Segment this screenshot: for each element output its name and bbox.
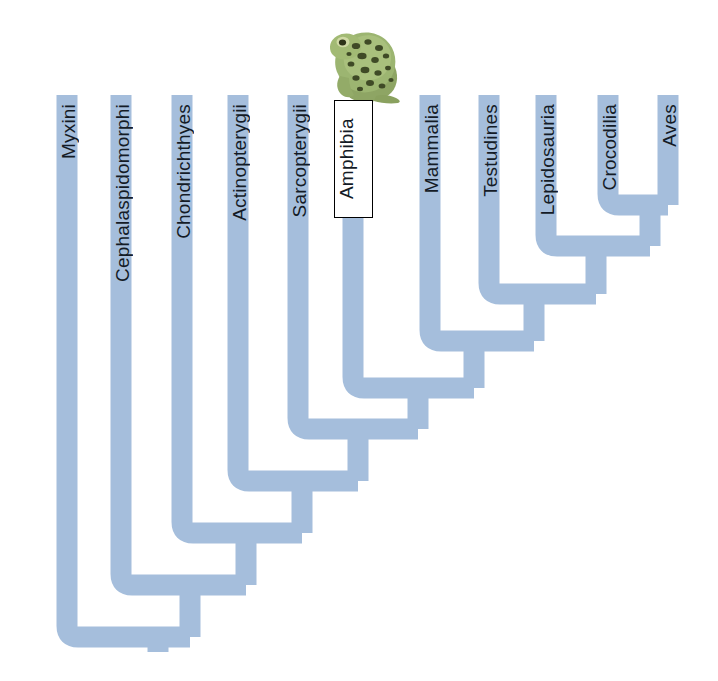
tip-label-actinopterygii[interactable]: Actinopterygii [230, 104, 249, 221]
tip-label-cephalaspidomorphi[interactable]: Cephalaspidomorphi [113, 104, 132, 282]
cladogram-figure: Myxini Cephalaspidomorphi Chondrichthyes… [0, 0, 718, 681]
tip-label-chondrichthyes[interactable]: Chondrichthyes [174, 104, 193, 239]
tip-label-testudines[interactable]: Testudines [481, 104, 500, 197]
tip-label-mammalia[interactable]: Mammalia [422, 104, 441, 193]
tip-label-sarcopterygii[interactable]: Sarcopterygii [290, 104, 309, 217]
tip-label-aves[interactable]: Aves [660, 104, 679, 147]
tip-label-crocodilia[interactable]: Crocodilia [600, 104, 619, 190]
branch-amphibia [353, 205, 474, 388]
tip-label-lepidosauria[interactable]: Lepidosauria [538, 104, 557, 215]
tip-label-myxini[interactable]: Myxini [59, 104, 78, 159]
frog-illustration [318, 18, 412, 104]
tip-label-amphibia[interactable]: Amphibia [334, 100, 373, 218]
